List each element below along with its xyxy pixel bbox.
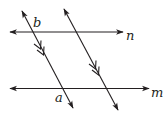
transversal-left <box>22 11 73 108</box>
geometry-diagram: b n a m <box>0 0 167 116</box>
label-n: n <box>126 28 134 43</box>
label-b: b <box>33 15 41 30</box>
label-m: m <box>151 85 163 100</box>
parallel-mark-right <box>89 61 99 76</box>
transversal-right <box>64 9 118 110</box>
label-a: a <box>55 90 63 105</box>
